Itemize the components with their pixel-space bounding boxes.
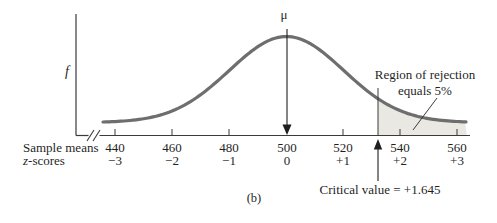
mu-arrow-icon (283, 29, 292, 135)
normal-distribution-figure: f μ Sample means z-scores 440 460 480 50… (0, 0, 497, 223)
tick-z-pos2: +2 (380, 154, 420, 167)
tick-z-pos3: +3 (437, 154, 477, 167)
mu-label: μ (274, 8, 294, 21)
tick-z-0: 0 (267, 154, 307, 167)
tick-z-neg3: −3 (95, 154, 135, 167)
critical-value-note: Critical value = +1.645 (300, 183, 460, 196)
rejection-region-note: Region of rejection equals 5% (363, 67, 487, 98)
tick-z-neg2: −2 (152, 154, 192, 167)
figure-caption: (b) (234, 192, 274, 205)
z-scores-axis-label: z-scores (23, 154, 65, 167)
tick-z-neg1: −1 (209, 154, 249, 167)
rejection-note-line1: Region of rejection (363, 67, 487, 83)
tick-z-pos1: +1 (323, 154, 363, 167)
rejection-note-line2: equals 5% (363, 83, 487, 99)
y-axis-label: f (60, 65, 74, 78)
